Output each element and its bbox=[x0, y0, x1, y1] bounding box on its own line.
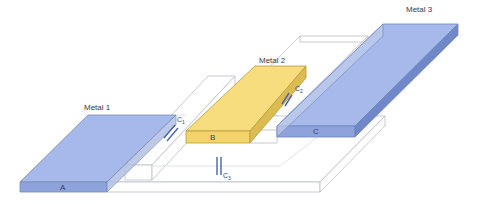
metal1-face-label: A bbox=[60, 183, 66, 192]
metal3-face-label: C bbox=[313, 127, 319, 136]
metal3-label: Metal 3 bbox=[406, 5, 433, 14]
diagram-canvas: Metal 1 Metal 2 Metal 3 A B C C1 C2 C3 bbox=[0, 0, 477, 204]
metal2-label: Metal 2 bbox=[259, 56, 286, 65]
metal1-label: Metal 1 bbox=[84, 103, 111, 112]
metal2-face-label: B bbox=[210, 133, 215, 142]
metal2-front-face bbox=[186, 131, 250, 143]
capacitance-diagram: Metal 1 Metal 2 Metal 3 A B C C1 C2 C3 bbox=[0, 0, 477, 204]
capacitor-c2-label: C2 bbox=[295, 85, 303, 94]
